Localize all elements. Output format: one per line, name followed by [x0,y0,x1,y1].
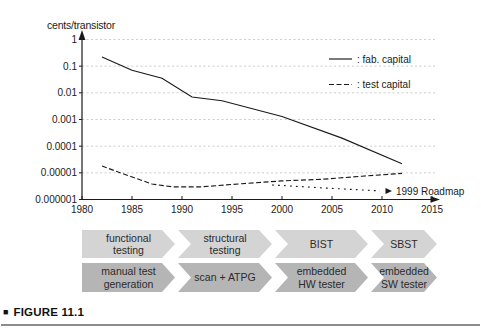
x-tick-label: 1995 [221,204,244,215]
y-tick-labels: 10.10.010.0010.00010.000010.000001 [35,34,82,205]
legend: : fab. capital: test capital [329,54,411,91]
chevron-label: structural testing [203,232,246,257]
y-tick-label: 0.0001 [46,141,77,152]
x-tick-labels: 19801985199019952000200520102015 [71,196,444,215]
y-axis-arrow-icon [79,30,86,40]
x-tick-label: 2000 [271,204,294,215]
x-tick-label: 2010 [371,204,394,215]
chevron-label: embedded HW tester [297,265,347,290]
chevron-label: BIST [310,238,333,250]
chevron-embedded-sw-tester: embedded SW tester [371,263,437,292]
chevron-label: scan + ATPG [194,271,255,283]
y-tick-label: 0.01 [58,87,78,98]
roadmap-annotation: 1999 Roadmap [386,186,465,197]
timeline-row-test-tools: manual test generation scan + ATPG embed… [0,263,481,292]
roadmap-arrow-icon [386,188,393,194]
timeline-row-test-methods: functional testing structural testing BI… [0,230,481,258]
y-tick-label: 0.1 [63,61,77,72]
chevron-scan-atpg: scan + ATPG [178,263,272,292]
chevron-functional-testing: functional testing [82,230,175,258]
y-tick-label: 0.001 [52,114,77,125]
x-tick-label: 1980 [71,204,94,215]
y-tick-label: 1 [71,34,77,45]
figure-caption: ■ FIGURE 11.1 [3,306,84,318]
legend-label: : test capital [357,79,410,90]
chevron-label: embedded SW tester [379,265,429,290]
chevron-bist: BIST [275,230,368,258]
chevron-label: functional testing [106,232,151,257]
x-tick-label: 1990 [171,204,194,215]
roadmap-label: 1999 Roadmap [396,186,465,197]
chevron-manual-test-generation: manual test generation [82,263,175,292]
figure-caption-label: FIGURE 11.1 [13,306,84,318]
chart-svg: 1980198519901995200020052010201510.10.01… [0,0,481,228]
series-line-1999-roadmap [272,185,380,191]
x-tick-label: 2015 [421,204,444,215]
chevron-sbst: SBST [371,230,437,258]
y-tick-label: 0.000001 [35,194,77,205]
figure-marker-icon: ■ [3,308,8,317]
chevron-label: manual test generation [101,265,155,290]
chevron-embedded-hw-tester: embedded HW tester [275,263,368,292]
series-line-fab-capital [102,57,402,164]
series-line-test-capital [102,166,402,187]
bottom-rule [1,324,480,326]
chart-area: cents/transistor 19801985199019952000200… [0,0,481,228]
legend-label: : fab. capital [357,54,411,65]
x-tick-label: 2005 [321,204,344,215]
figure-11-1: cents/transistor 19801985199019952000200… [0,0,481,331]
chevron-label: SBST [390,238,417,250]
chevron-structural-testing: structural testing [178,230,272,258]
x-tick-label: 1985 [121,204,144,215]
y-tick-label: 0.00001 [41,167,78,178]
